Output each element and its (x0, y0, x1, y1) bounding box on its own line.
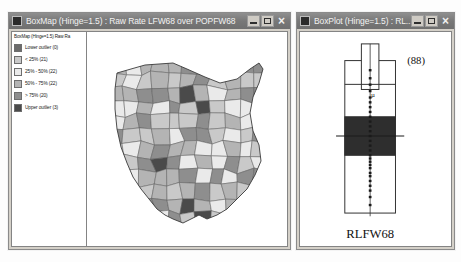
boxplot-titlebar[interactable]: BoxPlot (Hinge=1.5) : RL... × (297, 13, 454, 29)
window-system-icon[interactable] (12, 16, 22, 26)
map-county[interactable] (195, 168, 212, 183)
map-county[interactable] (239, 59, 254, 73)
map-legend-panel[interactable]: BoxMap (Hinge=1.5) Raw Ra Lower outlier … (11, 31, 87, 247)
map-county[interactable] (111, 154, 124, 171)
boxplot-data-point[interactable] (369, 204, 372, 206)
boxmap-window[interactable]: BoxMap (Hinge=1.5) : Raw Rate LFW68 over… (8, 12, 291, 250)
map-county[interactable] (111, 86, 124, 101)
map-county[interactable] (168, 73, 181, 88)
close-button[interactable]: × (439, 15, 452, 27)
map-county[interactable] (150, 113, 169, 129)
boxplot-data-point[interactable] (369, 125, 372, 127)
boxplot-data-point[interactable] (369, 189, 372, 191)
map-county[interactable] (196, 113, 210, 130)
map-county[interactable] (252, 185, 267, 199)
map-county[interactable] (123, 183, 140, 200)
map-county[interactable] (239, 213, 256, 227)
map-county[interactable] (224, 213, 239, 227)
map-county[interactable] (193, 85, 209, 102)
map-county[interactable] (151, 129, 170, 145)
map-county[interactable] (179, 168, 198, 183)
map-county[interactable] (179, 101, 199, 114)
map-county[interactable] (240, 141, 252, 157)
map-county[interactable] (180, 212, 196, 227)
boxplot-window[interactable]: BoxPlot (Hinge=1.5) : RL... × µ(88)RLFW6… (296, 12, 455, 250)
map-county[interactable] (237, 196, 255, 214)
map-county[interactable] (150, 59, 169, 73)
legend-item[interactable]: Upper outlier (3) (14, 102, 84, 113)
map-county[interactable] (150, 71, 169, 89)
map-county[interactable] (209, 101, 225, 113)
boxplot-data-point[interactable] (369, 185, 372, 187)
legend-item[interactable]: 25% - 50% (22) (14, 66, 84, 77)
boxplot-data-point[interactable] (369, 69, 372, 71)
map-county[interactable] (152, 184, 167, 200)
map-county[interactable] (226, 199, 240, 214)
map-county[interactable] (196, 101, 210, 114)
boxplot-data-point[interactable] (369, 161, 372, 163)
boxplot-data-point[interactable] (369, 149, 372, 151)
map-county[interactable] (252, 196, 267, 214)
map-county[interactable] (138, 212, 156, 227)
map-county[interactable] (111, 183, 123, 199)
map-county[interactable] (136, 89, 153, 104)
map-county[interactable] (111, 213, 126, 227)
window-system-icon[interactable] (300, 16, 310, 26)
minimize-button[interactable] (411, 15, 424, 27)
map-county[interactable] (252, 101, 267, 115)
boxplot-data-point[interactable] (369, 167, 372, 169)
maximize-button[interactable] (261, 15, 274, 27)
map-county[interactable] (169, 113, 179, 129)
boxplot-data-point[interactable] (369, 106, 372, 108)
boxmap-titlebar[interactable]: BoxMap (Hinge=1.5) : Raw Rate LFW68 over… (9, 13, 290, 29)
boxplot-data-point[interactable] (369, 140, 372, 142)
boxplot-data-point[interactable] (369, 77, 372, 79)
map-county[interactable] (111, 170, 124, 185)
map-county[interactable] (123, 196, 140, 213)
map-county[interactable] (179, 113, 199, 128)
map-county[interactable] (111, 196, 126, 213)
map-county[interactable] (111, 115, 125, 130)
boxplot-data-point[interactable] (369, 101, 372, 103)
map-county[interactable] (194, 211, 211, 227)
boxplot-data-point[interactable] (369, 116, 372, 118)
map-county[interactable] (154, 210, 169, 227)
map-county[interactable] (111, 129, 123, 144)
maximize-button[interactable] (425, 15, 438, 27)
map-county[interactable] (253, 213, 267, 227)
boxplot-data-point[interactable] (369, 144, 372, 146)
legend-item[interactable]: 50% - 75% (22) (14, 78, 84, 89)
legend-item[interactable]: > 75% (20) (14, 90, 84, 101)
map-county[interactable] (194, 183, 210, 201)
boxplot-data-point[interactable] (369, 135, 372, 137)
legend-item[interactable]: Lower outlier (0) (14, 42, 84, 53)
boxplot-data-point[interactable] (369, 180, 372, 182)
map-county[interactable] (222, 59, 241, 72)
map-county[interactable] (208, 113, 225, 130)
minimize-button[interactable] (247, 15, 260, 27)
boxplot-data-point[interactable] (369, 157, 372, 159)
boxplot-data-point[interactable] (369, 111, 372, 113)
boxplot-data-point[interactable] (369, 154, 372, 156)
boxplot-data-point[interactable] (369, 196, 372, 198)
map-county[interactable] (252, 113, 267, 129)
map-county[interactable] (125, 59, 142, 75)
legend-item[interactable]: < 25% (21) (14, 54, 84, 65)
boxplot-data-point[interactable] (369, 172, 372, 174)
map-county[interactable] (196, 59, 212, 75)
map-county[interactable] (241, 127, 254, 143)
boxplot-data-point[interactable] (369, 83, 372, 85)
map-county[interactable] (254, 73, 267, 88)
map-county[interactable] (111, 101, 125, 118)
boxplot-data-point[interactable] (369, 130, 372, 132)
boxplot-canvas[interactable]: µ(88)RLFW68 (299, 31, 452, 247)
boxplot-data-point[interactable] (369, 175, 372, 177)
close-button[interactable]: × (275, 15, 288, 27)
map-county[interactable] (167, 156, 181, 170)
map-county[interactable] (210, 211, 226, 227)
map-canvas[interactable] (87, 31, 288, 247)
boxplot-data-point[interactable] (369, 120, 372, 122)
boxplot-data-point[interactable] (369, 164, 372, 166)
map-county[interactable] (125, 212, 139, 227)
map-county[interactable] (210, 59, 224, 73)
